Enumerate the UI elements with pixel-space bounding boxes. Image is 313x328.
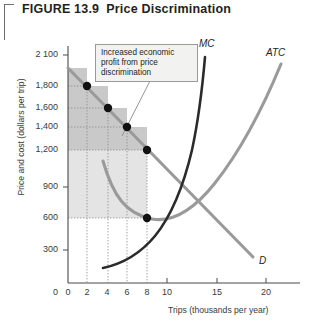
y-tick-label: 2 100: [18, 49, 58, 59]
x-tick-label: 10: [157, 287, 177, 297]
data-point: [83, 82, 91, 90]
data-point: [143, 146, 151, 154]
y-tick-label: 600: [18, 212, 58, 222]
x-tick-label: 0: [58, 287, 78, 297]
data-point: [143, 214, 151, 222]
mc-curve-label: MC: [199, 38, 215, 49]
data-point: [104, 104, 112, 112]
x-tick-label: 8: [137, 287, 157, 297]
x-tick-label: 15: [207, 287, 227, 297]
y-tick-label: 0: [18, 287, 58, 297]
x-tick-label: 6: [117, 287, 137, 297]
y-axis-title: Price and cost (dollars per trip): [16, 62, 26, 212]
x-tick-label: 2: [77, 287, 97, 297]
y-axis-ticks: [63, 55, 68, 250]
x-axis-ticks: [167, 278, 266, 283]
y-tick-label: 300: [18, 244, 58, 254]
data-point: [123, 123, 131, 131]
annotation-callout: Increased economic profit from price dis…: [95, 44, 198, 82]
chart-plot-area: 2 100 1,800 1,600 1,400 1,200 900 600 30…: [0, 0, 313, 328]
x-tick-label: 4: [97, 287, 117, 297]
demand-curve-label: D: [259, 255, 266, 266]
region-single-price-profit: [68, 150, 147, 218]
x-axis-title: Trips (thousands per year): [168, 305, 268, 315]
atc-curve-label: ATC: [266, 47, 285, 58]
figure-container: FIGURE 13.9Price Discrimination: [0, 0, 313, 328]
x-tick-label: 20: [256, 287, 276, 297]
